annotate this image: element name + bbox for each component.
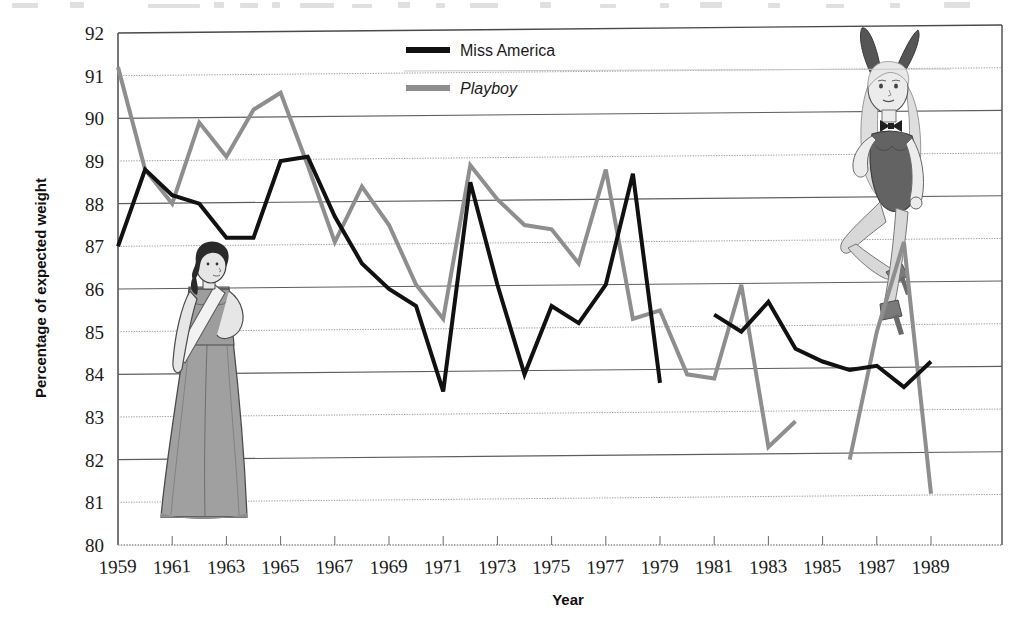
x-tick-label: 1975 [532, 555, 571, 578]
x-axis-title: Year [552, 591, 584, 608]
x-tick-label: 1987 [857, 555, 896, 578]
x-tick-label: 1981 [694, 555, 733, 578]
x-tick-label: 1967 [315, 555, 354, 578]
y-tick-label: 80 [85, 535, 104, 556]
y-tick-label: 83 [85, 407, 104, 428]
legend-swatch-playboy [406, 85, 450, 91]
chart-figure: 80818283848586878889909192 1959196119631… [0, 0, 1025, 630]
legend-entry-playboy: Playboy [406, 80, 518, 97]
x-tick-label: 1963 [207, 555, 246, 578]
x-tick-label: 1985 [803, 555, 842, 578]
y-tick-label: 87 [85, 236, 104, 257]
line-chart: 80818283848586878889909192 1959196119631… [0, 0, 1025, 630]
x-tick-label: 1961 [152, 555, 191, 578]
playboy-bunny-figure [841, 28, 924, 335]
y-tick-label: 92 [85, 23, 104, 44]
legend-entry-miss-america: Miss America [406, 42, 555, 59]
y-tick-label: 82 [85, 450, 104, 471]
y-tick-label: 90 [85, 108, 104, 129]
y-tick-label: 84 [85, 364, 105, 385]
series-miss-america [118, 157, 931, 392]
x-tick-label: 1989 [911, 555, 950, 578]
legend-label-playboy: Playboy [460, 80, 518, 97]
x-tick-label: 1983 [749, 555, 788, 578]
x-tick-label: 1969 [369, 555, 408, 578]
y-tick-label: 81 [85, 492, 104, 513]
x-tick-label: 1965 [261, 555, 300, 578]
x-axis-tick-marks [172, 536, 931, 545]
miss-america-figure [161, 242, 247, 519]
y-axis-title: Percentage of expected weight [32, 178, 49, 398]
x-tick-label: 1979 [640, 555, 679, 578]
x-axis-tick-labels: 1959196119631965196719691971197319751977… [98, 555, 950, 578]
x-tick-label: 1977 [586, 555, 625, 578]
legend-swatch-miss-america [406, 47, 450, 53]
y-tick-label: 86 [85, 279, 104, 300]
y-tick-label: 91 [85, 66, 104, 87]
y-axis-tick-labels: 80818283848586878889909192 [85, 23, 105, 556]
x-tick-label: 1959 [98, 555, 137, 578]
y-tick-label: 85 [85, 322, 104, 343]
x-tick-label: 1973 [478, 555, 517, 578]
x-tick-label: 1971 [423, 555, 462, 578]
y-tick-label: 88 [85, 194, 104, 215]
legend-label-miss-america: Miss America [460, 42, 555, 59]
y-tick-label: 89 [85, 151, 104, 172]
